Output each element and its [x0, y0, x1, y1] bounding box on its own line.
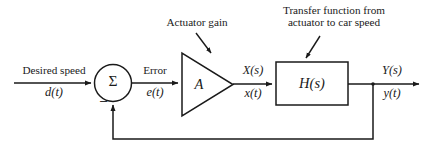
transfer-function-annotation-line2: actuator to car speed — [288, 16, 380, 29]
output-time-label: y(t) — [383, 87, 400, 101]
actuator-laplace-label: X(s) — [243, 64, 264, 78]
transfer-function-annotation-line1: Transfer function from — [283, 4, 385, 17]
summing-junction-negative-sign: – — [100, 94, 107, 109]
output-laplace-label: Y(s) — [382, 64, 402, 78]
error-time-label: e(t) — [146, 86, 163, 100]
input-time-label: d(t) — [45, 86, 63, 100]
error-signal-label: Error — [143, 64, 167, 77]
actuator-gain-leader-arrow — [196, 33, 211, 53]
summing-junction-sigma-symbol: Σ — [108, 72, 117, 89]
transfer-function-leader-arrow — [306, 36, 320, 58]
amplifier-triangle — [182, 53, 233, 116]
actuator-gain-annotation: Actuator gain — [166, 16, 227, 29]
plant-transfer-function-label: H(s) — [299, 75, 325, 91]
block-diagram-figure: Actuator gain Transfer function from act… — [0, 0, 437, 155]
feedback-tap-node — [371, 82, 375, 86]
amplifier-gain-label: A — [195, 76, 204, 92]
actuator-time-label: x(t) — [244, 87, 261, 101]
input-signal-label: Desired speed — [22, 64, 85, 77]
